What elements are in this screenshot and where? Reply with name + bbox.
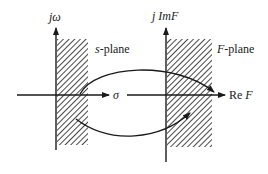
- f-plane-label-rest: -plane: [224, 42, 254, 56]
- jw-axis-label: jω: [47, 10, 61, 24]
- j-im-f-axis-label: j ImF: [150, 9, 179, 23]
- j-im-f-var: F: [170, 9, 179, 23]
- f-plane-label: F-plane: [216, 42, 254, 56]
- s-plane: jω σ s-plane: [17, 10, 130, 150]
- s-to-f-plane-mapping-diagram: jω σ s-plane j ImF ReF F-plane: [0, 0, 268, 174]
- re-f-var: F: [244, 88, 253, 102]
- re-f-prefix: Re: [229, 88, 242, 102]
- f-plane-shaded-region: [167, 39, 212, 147]
- s-plane-label: s-plane: [95, 42, 130, 56]
- j-im-f-prefix: j Im: [150, 9, 171, 23]
- re-f-axis-label: ReF: [229, 88, 253, 102]
- f-plane: j ImF ReF F-plane: [127, 9, 254, 162]
- s-plane-shaded-region: [57, 39, 88, 145]
- s-plane-label-rest: -plane: [100, 42, 130, 56]
- sigma-axis-label: σ: [113, 88, 120, 102]
